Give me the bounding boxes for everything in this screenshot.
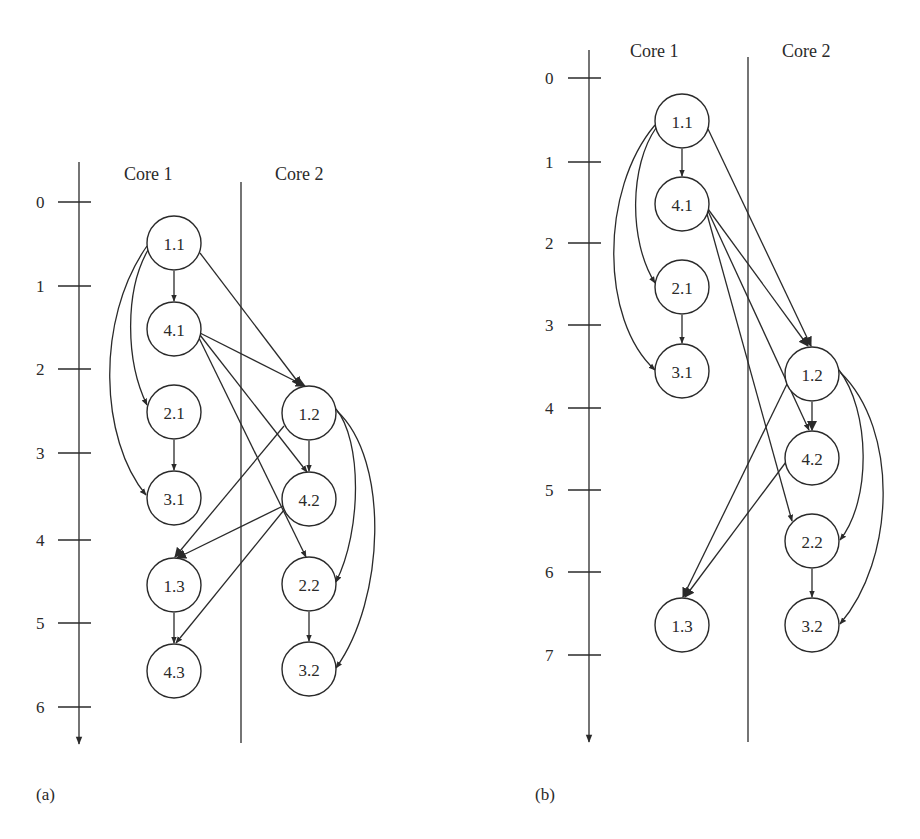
column-header-core-1: Core 1 <box>630 41 679 61</box>
task-node-label: 1.3 <box>163 577 184 596</box>
task-node: 3.2 <box>282 642 336 696</box>
tick-label: 4 <box>545 399 554 418</box>
task-node-label: 4.1 <box>163 321 184 340</box>
task-node-label: 1.2 <box>801 366 822 385</box>
task-node-label: 1.2 <box>298 405 319 424</box>
tick-label: 3 <box>545 316 554 335</box>
task-node-label: 2.1 <box>671 279 692 298</box>
tick-label: 4 <box>36 531 45 550</box>
task-node-label: 3.1 <box>163 490 184 509</box>
tick-label: 2 <box>36 360 45 379</box>
task-node-label: 3.2 <box>801 617 822 636</box>
task-node-label: 1.3 <box>671 617 692 636</box>
panel-caption-a: (a) <box>36 785 55 804</box>
task-node: 1.1 <box>147 216 201 270</box>
task-node: 4.2 <box>785 431 839 485</box>
task-node: 1.2 <box>282 386 336 440</box>
tick-label: 6 <box>36 698 45 717</box>
task-node: 4.3 <box>147 644 201 698</box>
tick-label: 0 <box>545 69 554 88</box>
task-node: 3.2 <box>785 598 839 652</box>
task-node: 1.1 <box>655 94 709 148</box>
task-node: 1.3 <box>147 558 201 612</box>
time-axis: 0 1 2 3 4 5 6 7 <box>545 50 601 742</box>
panel-caption-b: (b) <box>535 785 555 804</box>
task-node: 4.2 <box>282 472 336 526</box>
column-header-core-1: Core 1 <box>124 164 173 184</box>
task-node-label: 2.2 <box>801 533 822 552</box>
column-header-core-2: Core 2 <box>782 41 831 61</box>
task-node-label: 4.3 <box>163 663 184 682</box>
column-header-core-2: Core 2 <box>275 164 324 184</box>
tick-label: 7 <box>545 646 554 665</box>
task-node-label: 4.2 <box>801 450 822 469</box>
time-axis: 0 1 2 3 4 5 6 <box>36 162 91 744</box>
edges <box>110 246 375 668</box>
tick-label: 5 <box>36 614 45 633</box>
tick-label: 0 <box>36 193 45 212</box>
task-node: 4.1 <box>655 177 709 231</box>
tick-label: 1 <box>36 277 45 296</box>
tick-label: 6 <box>545 563 554 582</box>
task-node-label: 1.1 <box>671 113 692 132</box>
task-node-label: 4.1 <box>671 196 692 215</box>
task-node-label: 2.1 <box>163 404 184 423</box>
task-node: 4.1 <box>147 302 201 356</box>
task-node: 3.1 <box>655 344 709 398</box>
task-node-label: 1.1 <box>163 235 184 254</box>
task-node: 1.2 <box>785 347 839 401</box>
tick-label: 1 <box>545 153 554 172</box>
task-node-label: 2.2 <box>298 576 319 595</box>
task-node-label: 3.1 <box>671 363 692 382</box>
task-node-label: 4.2 <box>298 491 319 510</box>
task-node-label: 3.2 <box>298 661 319 680</box>
tick-label: 5 <box>545 481 554 500</box>
tick-label: 2 <box>545 234 554 253</box>
task-node: 1.3 <box>655 598 709 652</box>
panel-b: Core 1 Core 2 0 1 2 3 4 5 6 7 <box>535 41 883 804</box>
schedule-diagrams: Core 1 Core 2 0 1 2 3 4 5 6 <box>0 0 920 839</box>
task-node: 2.1 <box>655 260 709 314</box>
panel-a: Core 1 Core 2 0 1 2 3 4 5 6 <box>36 162 375 804</box>
task-node: 2.1 <box>147 385 201 439</box>
task-node: 2.2 <box>282 557 336 611</box>
task-node: 2.2 <box>785 514 839 568</box>
tick-label: 3 <box>36 444 45 463</box>
task-node: 3.1 <box>147 471 201 525</box>
